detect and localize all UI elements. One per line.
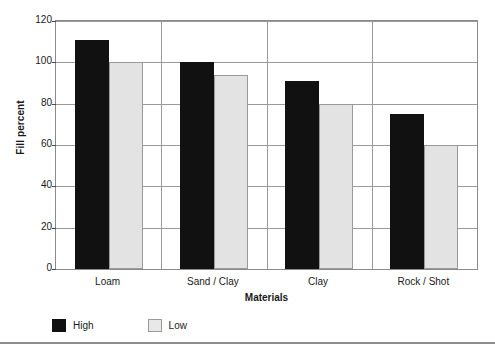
chart-legend: HighLow xyxy=(52,319,187,332)
bar-low-clay xyxy=(319,104,353,269)
group-separator xyxy=(372,21,373,269)
bar-low-sand-clay xyxy=(214,75,248,269)
x-axis-tick-label: Rock / Shot xyxy=(371,276,476,287)
y-axis-tick-mark xyxy=(52,269,56,270)
bar-high-clay xyxy=(285,81,319,269)
bar-high-sand-clay xyxy=(180,62,214,269)
legend-label: High xyxy=(73,320,94,331)
x-axis-title: Materials xyxy=(55,292,478,303)
bar-high-loam xyxy=(75,40,109,269)
footer-divider xyxy=(0,342,495,344)
y-axis-tick-labels: 020406080100120 xyxy=(22,20,52,270)
bar-high-rock-shot xyxy=(390,114,424,269)
y-axis-tick-label: 20 xyxy=(26,222,52,232)
y-axis-tick-mark xyxy=(52,186,56,187)
x-axis-tick-label: Sand / Clay xyxy=(160,276,265,287)
plot-inner xyxy=(56,21,477,269)
y-axis-tick-label: 80 xyxy=(26,98,52,108)
legend-swatch-high xyxy=(52,319,66,332)
y-axis-tick-label: 60 xyxy=(26,139,52,149)
x-axis-tick-label: Loam xyxy=(55,276,160,287)
bar-chart-figure: Fill percent 020406080100120 LoamSand / … xyxy=(0,0,495,352)
plot-area xyxy=(55,20,478,270)
legend-item-high: High xyxy=(52,319,94,332)
y-axis-tick-mark xyxy=(52,145,56,146)
legend-item-low: Low xyxy=(148,319,187,332)
legend-swatch-low xyxy=(148,319,162,332)
y-axis-tick-label: 40 xyxy=(26,180,52,190)
x-axis-tick-label: Clay xyxy=(266,276,371,287)
bar-low-loam xyxy=(109,62,143,269)
group-separator xyxy=(267,21,268,269)
legend-label: Low xyxy=(169,320,187,331)
group-separator xyxy=(161,21,162,269)
y-axis-tick-mark xyxy=(52,21,56,22)
y-axis-tick-label: 120 xyxy=(26,15,52,25)
y-axis-tick-mark xyxy=(52,62,56,63)
y-axis-tick-label: 100 xyxy=(26,56,52,66)
bar-low-rock-shot xyxy=(424,145,458,269)
y-axis-tick-mark xyxy=(52,228,56,229)
y-axis-tick-mark xyxy=(52,104,56,105)
y-axis-tick-label: 0 xyxy=(26,263,52,273)
